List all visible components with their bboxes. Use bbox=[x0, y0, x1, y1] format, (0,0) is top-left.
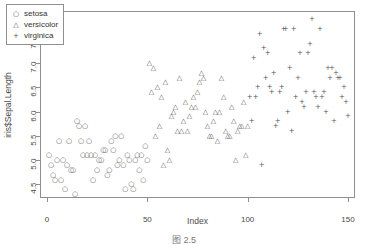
data-point: △ bbox=[211, 118, 216, 125]
data-point: △ bbox=[205, 123, 210, 130]
data-point: + bbox=[291, 26, 297, 33]
plot-frame: ○○○○○○○○○○○○○○○○○○○○○○○○○○○○○○○○○○○○○○○○… bbox=[40, 11, 355, 198]
data-point: + bbox=[303, 89, 309, 96]
figure-caption: 图 2.5 bbox=[0, 233, 368, 244]
x-tick-mark bbox=[248, 197, 249, 202]
data-point: + bbox=[345, 113, 351, 120]
data-point: + bbox=[321, 89, 327, 96]
data-point: + bbox=[305, 50, 311, 57]
data-point: △ bbox=[187, 113, 192, 120]
data-point: + bbox=[307, 40, 313, 47]
data-point: + bbox=[263, 74, 269, 81]
data-point: + bbox=[331, 118, 337, 125]
data-point: ○ bbox=[142, 142, 148, 149]
data-point: △ bbox=[227, 132, 232, 139]
data-point: + bbox=[271, 69, 277, 76]
data-point: △ bbox=[221, 94, 226, 101]
data-point: △ bbox=[201, 74, 206, 81]
data-point: △ bbox=[173, 103, 178, 110]
data-point: △ bbox=[231, 118, 236, 125]
data-point: ○ bbox=[98, 157, 104, 164]
data-point: + bbox=[293, 94, 299, 101]
data-point: + bbox=[249, 118, 255, 125]
data-point: △ bbox=[151, 64, 156, 71]
data-point: + bbox=[289, 128, 295, 135]
data-point: ○ bbox=[102, 147, 108, 154]
data-point: △ bbox=[181, 118, 186, 125]
data-point: △ bbox=[149, 89, 154, 96]
data-point: + bbox=[337, 74, 343, 81]
data-point: ○ bbox=[62, 186, 68, 193]
scatter-data-layer: ○○○○○○○○○○○○○○○○○○○○○○○○○○○○○○○○○○○○○○○○… bbox=[41, 12, 354, 197]
data-point: + bbox=[279, 84, 285, 91]
data-point: ○ bbox=[118, 132, 124, 139]
x-tick-mark bbox=[348, 197, 349, 202]
legend-item-setosa: ○setosa bbox=[10, 8, 58, 19]
data-point: + bbox=[317, 26, 323, 33]
data-point: ○ bbox=[66, 137, 72, 144]
y-tick-label: 6.0 bbox=[29, 110, 38, 121]
x-tick-mark bbox=[47, 197, 48, 202]
data-point: ○ bbox=[78, 137, 84, 144]
data-point: ○ bbox=[90, 176, 96, 183]
data-point: ○ bbox=[82, 123, 88, 130]
legend-label: virginica bbox=[22, 31, 53, 40]
data-point: + bbox=[343, 98, 349, 105]
data-point: △ bbox=[161, 162, 166, 169]
data-point: △ bbox=[195, 89, 200, 96]
data-point: + bbox=[247, 94, 253, 101]
y-tick-label: 4.5 bbox=[29, 183, 38, 194]
data-point: + bbox=[313, 94, 319, 101]
figure-screenshot: ○○○○○○○○○○○○○○○○○○○○○○○○○○○○○○○○○○○○○○○○… bbox=[0, 0, 368, 244]
legend-label: versicolor bbox=[22, 20, 58, 29]
data-point: + bbox=[301, 103, 307, 110]
data-point: ○ bbox=[86, 137, 92, 144]
data-point: ○ bbox=[58, 176, 64, 183]
y-tick-label: 5.5 bbox=[29, 134, 38, 145]
x-tick-mark bbox=[147, 197, 148, 202]
y-tick-label: 6.5 bbox=[29, 86, 38, 97]
data-point: + bbox=[341, 84, 347, 91]
data-point: ○ bbox=[106, 166, 112, 173]
data-point: △ bbox=[159, 94, 164, 101]
data-point: △ bbox=[167, 157, 172, 164]
data-point: △ bbox=[155, 84, 160, 91]
data-point: + bbox=[315, 103, 321, 110]
legend-symbol-icon: + bbox=[10, 32, 22, 40]
data-point: ○ bbox=[72, 191, 78, 197]
data-point: △ bbox=[215, 137, 220, 144]
data-point: + bbox=[323, 108, 329, 115]
data-point: △ bbox=[217, 108, 222, 115]
data-point: △ bbox=[229, 103, 234, 110]
legend-label: setosa bbox=[22, 9, 48, 18]
data-point: △ bbox=[209, 132, 214, 139]
data-point: + bbox=[255, 84, 261, 91]
data-point: + bbox=[275, 118, 281, 125]
data-point: △ bbox=[219, 74, 224, 81]
legend-item-virginica: +virginica bbox=[10, 30, 58, 41]
data-point: △ bbox=[165, 147, 170, 154]
data-point: + bbox=[327, 74, 333, 81]
data-point: △ bbox=[153, 132, 158, 139]
data-point: △ bbox=[233, 157, 238, 164]
data-point: △ bbox=[157, 123, 162, 130]
data-point: △ bbox=[179, 128, 184, 135]
data-point: ○ bbox=[140, 176, 146, 183]
data-point: ○ bbox=[144, 157, 150, 164]
data-point: + bbox=[257, 30, 263, 37]
data-point: ○ bbox=[46, 152, 52, 159]
data-point: △ bbox=[177, 74, 182, 81]
data-point: ○ bbox=[110, 147, 116, 154]
x-axis-title: Index bbox=[40, 216, 355, 226]
data-point: △ bbox=[241, 98, 246, 105]
data-point: ○ bbox=[70, 166, 76, 173]
data-point: + bbox=[253, 94, 259, 101]
data-point: △ bbox=[163, 79, 168, 86]
data-point: + bbox=[295, 74, 301, 81]
data-point: + bbox=[287, 64, 293, 71]
y-tick-label: 5.0 bbox=[29, 159, 38, 170]
legend-symbol-icon: ○ bbox=[10, 10, 22, 18]
data-point: + bbox=[251, 55, 257, 62]
data-point: ○ bbox=[136, 166, 142, 173]
data-point: + bbox=[259, 162, 265, 169]
